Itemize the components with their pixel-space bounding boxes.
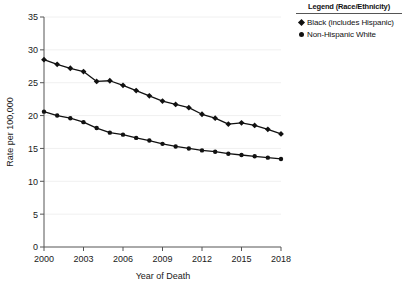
svg-text:35: 35 xyxy=(28,12,38,22)
data-point-marker xyxy=(160,98,166,104)
legend-divider xyxy=(296,13,402,14)
data-point-marker xyxy=(133,88,139,94)
data-point-marker xyxy=(55,113,59,117)
svg-text:2006: 2006 xyxy=(113,254,133,264)
data-point-marker xyxy=(120,82,126,88)
series-non-hispanic-white xyxy=(42,109,283,161)
svg-text:25: 25 xyxy=(28,78,38,88)
data-point-marker xyxy=(94,126,98,130)
gridlines xyxy=(44,17,281,214)
legend-item-black[interactable]: Black (includes Hispanic) xyxy=(296,18,402,27)
svg-text:10: 10 xyxy=(28,177,38,187)
axis-lines xyxy=(44,17,281,247)
data-point-marker xyxy=(173,144,177,148)
data-point-marker xyxy=(266,155,270,159)
data-point-marker xyxy=(225,121,231,127)
series-black xyxy=(41,57,284,137)
data-point-marker xyxy=(147,138,151,142)
data-point-marker xyxy=(160,142,164,146)
y-axis-tick-labels: 05101520253035 xyxy=(28,12,38,252)
chart-legend: Legend (Race/Ethnicity) Black (includes … xyxy=(296,2,402,42)
data-point-marker xyxy=(146,93,152,99)
data-point-marker xyxy=(200,148,204,152)
data-point-marker xyxy=(278,131,284,137)
svg-text:30: 30 xyxy=(28,45,38,55)
data-point-marker xyxy=(252,123,258,129)
data-point-marker xyxy=(213,150,217,154)
data-point-marker xyxy=(68,116,72,120)
data-point-marker xyxy=(121,132,125,136)
data-point-marker xyxy=(173,102,179,108)
legend-item-non-hispanic-white[interactable]: Non-Hispanic White xyxy=(296,30,402,39)
data-point-marker xyxy=(108,130,112,134)
data-point-marker xyxy=(187,146,191,150)
y-axis-ticks xyxy=(40,17,44,247)
legend-title: Legend (Race/Ethnicity) xyxy=(296,2,402,13)
diamond-marker-icon xyxy=(296,20,307,25)
data-point-marker xyxy=(199,111,205,117)
data-point-marker xyxy=(81,120,85,124)
svg-text:5: 5 xyxy=(33,210,38,220)
data-point-marker xyxy=(252,154,256,158)
data-point-marker xyxy=(41,57,47,63)
y-axis-title: Rate per 100,000 xyxy=(5,97,15,167)
circle-marker-icon xyxy=(296,32,307,37)
data-point-marker xyxy=(186,105,192,111)
legend-item-non-hispanic-white-label: Non-Hispanic White xyxy=(307,30,376,39)
x-axis-title: Year of Death xyxy=(136,271,191,281)
data-point-marker xyxy=(265,126,271,132)
svg-text:0: 0 xyxy=(33,242,38,252)
data-point-marker xyxy=(279,157,283,161)
svg-text:20: 20 xyxy=(28,111,38,121)
data-series-layer xyxy=(41,57,284,161)
data-point-marker xyxy=(67,65,73,71)
svg-text:2012: 2012 xyxy=(192,254,212,264)
x-axis-tick-labels: 2000200320062009201220152018 xyxy=(34,254,291,264)
chart-figure: 05101520253035 2000200320062009201220152… xyxy=(0,0,404,290)
svg-text:2018: 2018 xyxy=(271,254,291,264)
svg-text:2009: 2009 xyxy=(152,254,172,264)
data-point-marker xyxy=(226,151,230,155)
legend-item-black-label: Black (includes Hispanic) xyxy=(307,18,394,27)
data-point-marker xyxy=(212,115,218,121)
data-point-marker xyxy=(42,109,46,113)
svg-text:2000: 2000 xyxy=(34,254,54,264)
data-point-marker xyxy=(54,61,60,67)
svg-text:2015: 2015 xyxy=(231,254,251,264)
data-point-marker xyxy=(239,153,243,157)
data-point-marker xyxy=(239,120,245,126)
svg-text:2003: 2003 xyxy=(73,254,93,264)
data-point-marker xyxy=(134,136,138,140)
svg-text:15: 15 xyxy=(28,144,38,154)
line-chart-plot: 05101520253035 2000200320062009201220152… xyxy=(0,0,404,290)
x-axis-ticks xyxy=(44,247,281,251)
